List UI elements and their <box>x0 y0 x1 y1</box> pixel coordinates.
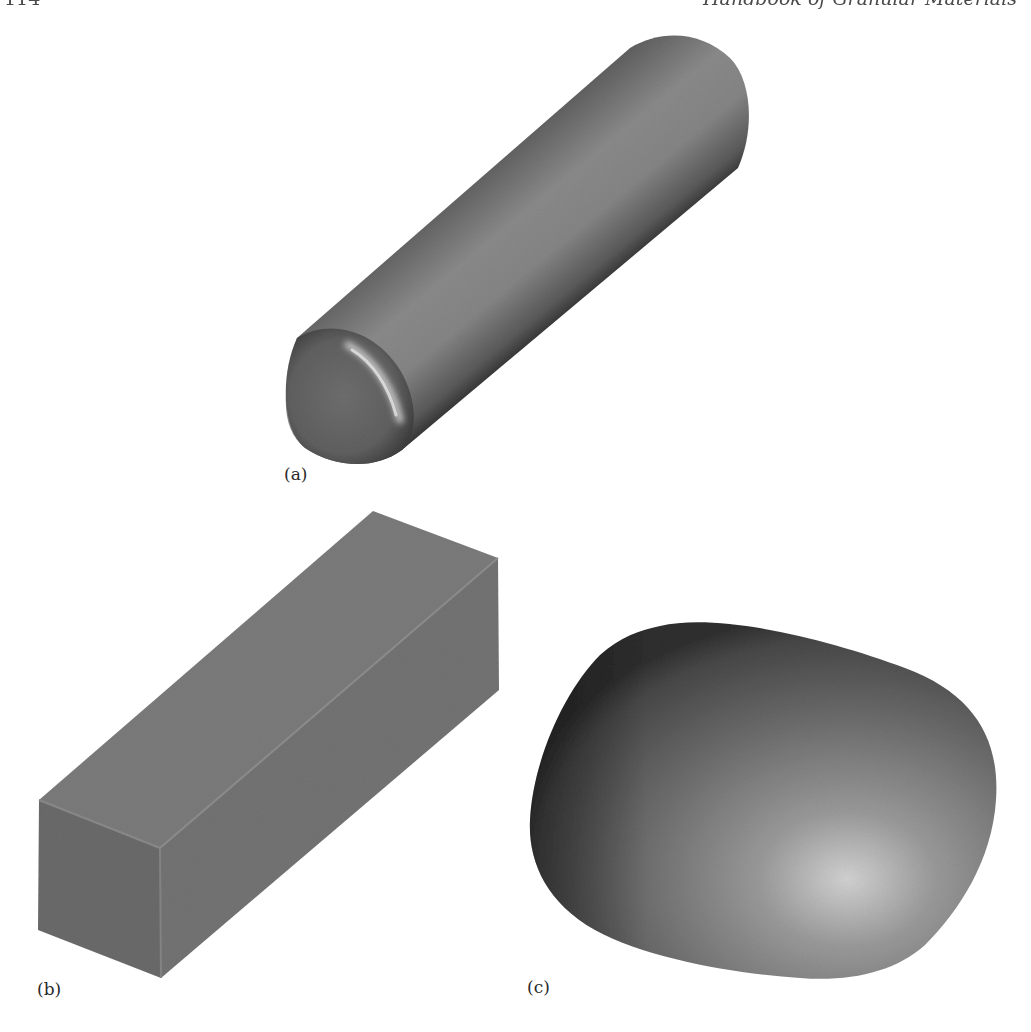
figure-illustrations <box>0 0 1031 1032</box>
panel-label-c: (c) <box>527 979 550 996</box>
panel-label-a: (a) <box>284 466 307 483</box>
panel-label-b: (b) <box>37 981 61 998</box>
pebble-shape <box>530 622 997 979</box>
box-shape <box>38 511 499 978</box>
cylinder-shape <box>286 36 749 464</box>
